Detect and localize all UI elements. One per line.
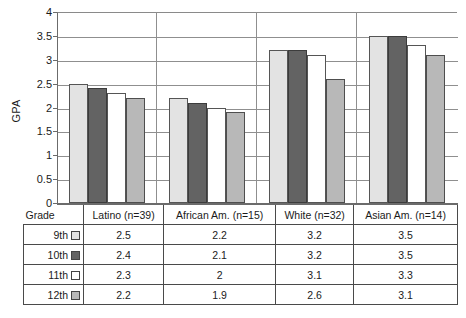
table-value-cell: 2.2 [84,285,164,305]
bar-groups [57,12,457,203]
y-tick-label: 0.5 [28,174,52,184]
bar [169,98,188,203]
y-tick-label: 1 [28,150,52,160]
legend-swatch-9th [71,231,80,240]
bar [69,84,88,203]
table-value-cell: 2.1 [164,245,276,265]
bar [307,55,326,203]
grade-cell: 9th [24,225,84,245]
y-tick-label: 2 [28,103,52,113]
table-corner-grade-label: Grade [24,205,84,225]
table-value-cell: 2.5 [84,225,164,245]
table-value-cell: 2 [164,265,276,285]
y-tick-label: 3.5 [28,31,52,41]
table-value-cell: 1.9 [164,285,276,305]
y-tick-label: 4 [28,7,52,17]
table-column-header: White (n=32) [276,205,354,225]
y-axis-title: GPA [10,81,22,141]
table-value-cell: 2.4 [84,245,164,265]
bar [407,45,426,203]
bar [369,36,388,203]
table-row: 9th2.52.23.23.5 [24,225,458,245]
legend-swatch-12th [71,291,80,300]
bar [126,98,145,203]
table-row: 11th2.323.13.3 [24,265,458,285]
table-value-cell: 3.5 [354,245,458,265]
table-value-cell: 3.5 [354,225,458,245]
grade-label: 11th [48,269,68,281]
table-value-cell: 2.3 [84,265,164,285]
table-value-cell: 3.3 [354,265,458,285]
bar [188,103,207,203]
y-tick-label: 1.5 [28,126,52,136]
table-row: 10th2.42.13.23.5 [24,245,458,265]
grade-label: 12th [48,289,68,301]
legend-swatch-10th [71,251,80,260]
bar [426,55,445,203]
table-value-cell: 3.1 [354,285,458,305]
data-table: Grade Latino (n=39)African Am. (n=15)Whi… [23,205,458,305]
bar [88,88,107,203]
table-column-header: African Am. (n=15) [164,205,276,225]
bar [107,93,126,203]
table-row: 12th2.21.92.63.1 [24,285,458,305]
bar-group [257,12,357,203]
bar [226,112,245,203]
table-value-cell: 3.2 [276,245,354,265]
bar-group [357,12,457,203]
bar [388,36,407,203]
bar [207,108,226,204]
bar [288,50,307,203]
y-tick-label: 2.5 [28,79,52,89]
table-header-row: Grade Latino (n=39)African Am. (n=15)Whi… [24,205,458,225]
bar-group [157,12,257,203]
table-value-cell: 3.2 [276,225,354,245]
grade-cell: 11th [24,265,84,285]
table-value-cell: 2.2 [164,225,276,245]
bar [269,50,288,203]
table-column-header: Asian Am. (n=14) [354,205,458,225]
y-tick-label: 3 [28,55,52,65]
table-value-cell: 2.6 [276,285,354,305]
y-axis-tick-labels: 00.511.522.533.54 [28,0,52,205]
grade-cell: 12th [24,285,84,305]
legend-swatch-11th [71,271,80,280]
grade-label: 10th [48,249,68,261]
bar-group [57,12,157,203]
table-value-cell: 3.1 [276,265,354,285]
bar [326,79,345,203]
grade-cell: 10th [24,245,84,265]
table-column-header: Latino (n=39) [84,205,164,225]
grade-label: 9th [53,229,68,241]
grouped-bar-chart: GPA 00.511.522.533.54 [0,0,466,205]
table-body: 9th2.52.23.23.510th2.42.13.23.511th2.323… [24,225,458,305]
